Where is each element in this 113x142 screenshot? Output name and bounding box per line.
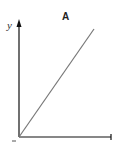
data-line bbox=[19, 29, 94, 137]
graph-title: A bbox=[62, 11, 69, 22]
line-graph: A y bbox=[0, 0, 113, 142]
y-axis-arrow-icon bbox=[17, 19, 22, 27]
y-axis-label: y bbox=[6, 19, 12, 31]
